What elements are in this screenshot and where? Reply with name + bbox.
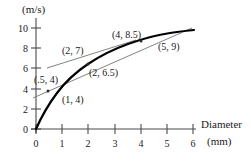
y-axis-unit-label: (m/s)	[22, 3, 46, 16]
marker-dot-2-7	[87, 63, 90, 66]
x-tick-label-6: 6	[191, 138, 196, 149]
x-tick-label-1: 1	[60, 138, 65, 149]
x-tick-label-0: 0	[34, 138, 39, 149]
x-tick-label-2: 2	[86, 138, 91, 149]
annotation-label-1-4: (1, 4)	[62, 94, 84, 106]
y-tick-labels: 10 8 6 4 2 0	[18, 23, 28, 135]
y-tick-label-10: 10	[18, 23, 28, 34]
x-tick-label-5: 5	[165, 138, 170, 149]
plot-canvas: 10 8 6 4 2 0 0 1 2 3 4 5 6 (m/s) Diamete…	[0, 0, 251, 161]
annotation-label-5-9: (5, 9)	[158, 41, 180, 53]
marker-dot-half-4	[47, 90, 50, 93]
annotation-label-4-8p5: (4, 8.5)	[112, 29, 141, 41]
annotation-label-2-7: (2, 7)	[62, 45, 84, 57]
marker-dots-group	[47, 40, 143, 93]
x-tick-label-3: 3	[113, 138, 118, 149]
tangent-at-2-7	[47, 40, 136, 68]
y-tick-label-4: 4	[23, 84, 28, 95]
x-tick-label-4: 4	[139, 138, 144, 149]
y-tick-label-2: 2	[23, 104, 28, 115]
annotation-label-half-4: (.5, 4)	[34, 74, 58, 86]
y-tick-label-6: 6	[23, 63, 28, 74]
y-tick-label-0: 0	[23, 124, 28, 135]
x-axis-title-line2: (mm)	[207, 135, 232, 148]
x-axis-title-line1: Diameter	[201, 118, 242, 130]
x-tick-labels: 0 1 2 3 4 5 6	[34, 138, 196, 149]
y-tick-label-8: 8	[23, 43, 28, 54]
annotation-label-2-6p5: (2, 6.5)	[89, 67, 118, 79]
velocity-diameter-graph-figure: 10 8 6 4 2 0 0 1 2 3 4 5 6 (m/s) Diamete…	[0, 0, 251, 161]
